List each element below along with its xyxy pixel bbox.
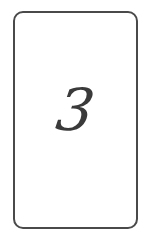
number-card[interactable]: 3	[13, 11, 138, 229]
card-value: 3	[11, 81, 140, 139]
